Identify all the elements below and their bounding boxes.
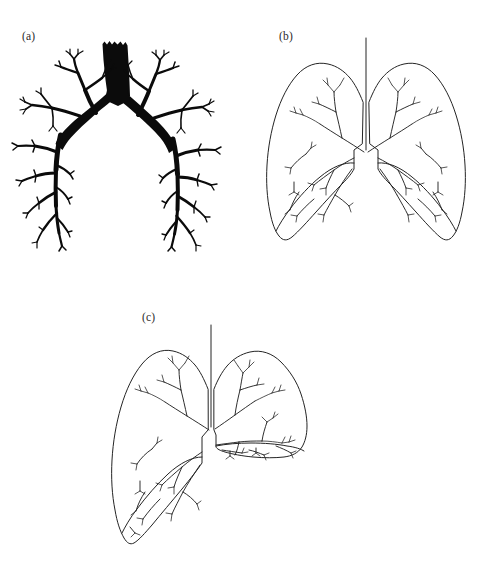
clipped-header-text [14, 0, 224, 2]
left-fissure-b [276, 163, 354, 231]
carina-and-main-bronchi [56, 90, 177, 153]
panel-c: (c) [100, 305, 360, 570]
right-lower-lobe-branches [159, 139, 221, 251]
normal-lungs-drawing [254, 32, 476, 264]
right-fissure-b [378, 163, 456, 231]
left-lung-outline-c [112, 350, 208, 543]
panel-b: (b) [248, 22, 480, 270]
right-lung-outline-b [369, 63, 465, 240]
left-fissure-c [122, 457, 202, 533]
bronchial-tree-silhouette [8, 40, 232, 252]
trachea-silhouette [103, 41, 131, 98]
figure-sheet: (a) [0, 0, 480, 576]
right-lung-outline-c [214, 351, 307, 458]
left-lower-lobe-branches [12, 135, 74, 251]
left-airways-c [130, 356, 209, 537]
left-lung-outline-b [267, 63, 363, 240]
right-lateral-branches [154, 90, 214, 133]
panel-a: (a) [0, 22, 240, 252]
asymmetric-lungs-drawing [104, 317, 356, 569]
right-fissure-c [216, 443, 304, 451]
